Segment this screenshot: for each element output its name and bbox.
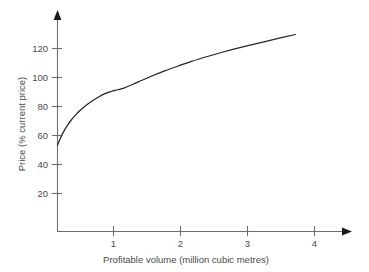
line-chart-svg: 120 100 80 60 40 20 1 2 3 4 Profitable v… [0, 0, 369, 272]
x-tick-label-1: 1 [111, 238, 116, 249]
x-tick-label-2: 2 [178, 238, 183, 249]
x-axis-title: Profitable volume (million cubic metres) [103, 254, 269, 265]
y-tick-label-20: 20 [37, 188, 48, 199]
chart-figure: 120 100 80 60 40 20 1 2 3 4 Profitable v… [0, 0, 369, 272]
y-axis-title: Price (% current price) [16, 77, 27, 172]
x-tick-label-3: 3 [245, 238, 250, 249]
y-tick-label-40: 40 [37, 159, 48, 170]
y-tick-label-60: 60 [37, 130, 48, 141]
y-tick-label-120: 120 [32, 43, 48, 54]
y-tick-label-100: 100 [32, 72, 48, 83]
x-tick-label-4: 4 [312, 238, 317, 249]
y-tick-label-80: 80 [37, 101, 48, 112]
